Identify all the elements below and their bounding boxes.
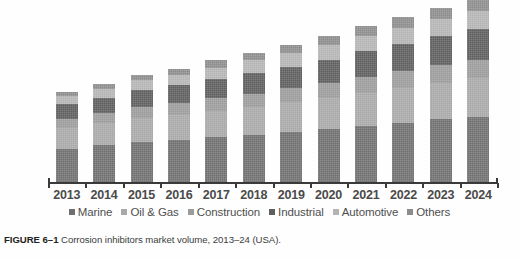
bar-segment-industrial-2022[interactable] bbox=[392, 44, 414, 71]
bar-stack-2015[interactable] bbox=[131, 75, 153, 183]
bar-segment-construction-2022[interactable] bbox=[392, 71, 414, 88]
bar-segment-oil-gas-2017[interactable] bbox=[205, 111, 227, 138]
legend-item-oil-gas[interactable]: Oil & Gas bbox=[121, 206, 178, 218]
bar-segment-oil-gas-2023[interactable] bbox=[430, 83, 452, 120]
bar-segment-others-2017[interactable] bbox=[205, 60, 227, 67]
bar-segment-oil-gas-2013[interactable] bbox=[56, 128, 78, 149]
bar-segment-industrial-2015[interactable] bbox=[131, 90, 153, 107]
bar-segment-marine-2018[interactable] bbox=[243, 135, 265, 183]
bar-stack-2013[interactable] bbox=[56, 92, 78, 183]
bar-segment-construction-2020[interactable] bbox=[318, 83, 340, 98]
bar-stack-2017[interactable] bbox=[205, 60, 227, 183]
bar-segment-automotive-2024[interactable] bbox=[467, 11, 489, 29]
bar-stack-2014[interactable] bbox=[93, 84, 115, 183]
bar-segment-others-2015[interactable] bbox=[131, 75, 153, 80]
bar-stack-2019[interactable] bbox=[280, 45, 302, 183]
bar-segment-others-2016[interactable] bbox=[168, 69, 190, 75]
bar-segment-industrial-2020[interactable] bbox=[318, 60, 340, 83]
bar-segment-construction-2014[interactable] bbox=[93, 113, 115, 123]
bar-segment-oil-gas-2022[interactable] bbox=[392, 88, 414, 123]
bar-segment-others-2024[interactable] bbox=[467, 0, 489, 11]
bar-segment-marine-2016[interactable] bbox=[168, 140, 190, 183]
bar-stack-2021[interactable] bbox=[355, 26, 377, 183]
bar-segment-automotive-2019[interactable] bbox=[280, 53, 302, 66]
legend-item-automotive[interactable]: Automotive bbox=[333, 206, 399, 218]
bar-segment-marine-2024[interactable] bbox=[467, 117, 489, 183]
bar-stack-2024[interactable] bbox=[467, 0, 489, 183]
legend-item-others[interactable]: Others bbox=[407, 206, 450, 218]
bar-stack-2018[interactable] bbox=[243, 53, 265, 183]
bar-segment-industrial-2018[interactable] bbox=[243, 73, 265, 94]
bar-segment-others-2022[interactable] bbox=[392, 17, 414, 28]
bar-segment-oil-gas-2020[interactable] bbox=[318, 98, 340, 129]
bar-segment-construction-2015[interactable] bbox=[131, 107, 153, 118]
legend-item-construction[interactable]: Construction bbox=[188, 206, 260, 218]
bar-segment-oil-gas-2024[interactable] bbox=[467, 78, 489, 116]
bar-segment-industrial-2024[interactable] bbox=[467, 29, 489, 59]
bar-segment-construction-2023[interactable] bbox=[430, 65, 452, 83]
legend-label-automotive: Automotive bbox=[342, 206, 399, 218]
bar-stack-2016[interactable] bbox=[168, 68, 190, 183]
bar-segment-automotive-2016[interactable] bbox=[168, 75, 190, 86]
bar-segment-others-2014[interactable] bbox=[93, 84, 115, 89]
x-tick-label-2013: 2013 bbox=[48, 188, 86, 202]
bar-segment-automotive-2013[interactable] bbox=[56, 96, 78, 104]
bar-segment-oil-gas-2016[interactable] bbox=[168, 115, 190, 140]
bar-segment-marine-2014[interactable] bbox=[93, 145, 115, 183]
bar-stack-2022[interactable] bbox=[392, 17, 414, 183]
bar-segment-industrial-2021[interactable] bbox=[355, 51, 377, 76]
bar-segment-oil-gas-2014[interactable] bbox=[93, 123, 115, 145]
bar-segment-industrial-2019[interactable] bbox=[280, 67, 302, 88]
bar-segment-oil-gas-2015[interactable] bbox=[131, 118, 153, 142]
bar-segment-marine-2019[interactable] bbox=[280, 132, 302, 183]
figure-container: 2013201420152016201720182019202020212022… bbox=[0, 0, 519, 259]
bar-segment-automotive-2017[interactable] bbox=[205, 68, 227, 80]
bar-segment-industrial-2023[interactable] bbox=[430, 36, 452, 65]
bar-segment-automotive-2015[interactable] bbox=[131, 80, 153, 90]
figure-caption: FIGURE 6–1 Corrosion inhibitors market v… bbox=[4, 234, 504, 245]
bar-segment-marine-2017[interactable] bbox=[205, 137, 227, 183]
bar-segment-construction-2017[interactable] bbox=[205, 98, 227, 111]
bar-segment-industrial-2017[interactable] bbox=[205, 79, 227, 98]
legend-item-marine[interactable]: Marine bbox=[69, 206, 113, 218]
bar-segment-others-2023[interactable] bbox=[430, 8, 452, 20]
bar-segment-marine-2015[interactable] bbox=[131, 142, 153, 183]
bar-segment-industrial-2013[interactable] bbox=[56, 104, 78, 118]
bar-segment-industrial-2014[interactable] bbox=[93, 98, 115, 113]
legend-swatch-icon-industrial bbox=[269, 209, 275, 215]
bar-segment-automotive-2014[interactable] bbox=[93, 89, 115, 98]
bar-segment-construction-2024[interactable] bbox=[467, 60, 489, 79]
bar-segment-oil-gas-2019[interactable] bbox=[280, 102, 302, 132]
chart-plot-area bbox=[48, 4, 497, 183]
bar-segment-construction-2021[interactable] bbox=[355, 77, 377, 93]
bar-segment-construction-2018[interactable] bbox=[243, 94, 265, 107]
bar-segment-industrial-2016[interactable] bbox=[168, 85, 190, 103]
bar-segment-automotive-2020[interactable] bbox=[318, 45, 340, 59]
bar-segment-automotive-2022[interactable] bbox=[392, 28, 414, 44]
bar-segment-others-2013[interactable] bbox=[56, 92, 78, 96]
bar-segment-automotive-2018[interactable] bbox=[243, 60, 265, 73]
bar-segment-construction-2016[interactable] bbox=[168, 103, 190, 115]
x-tick-label-2023: 2023 bbox=[422, 188, 460, 202]
bar-segment-marine-2013[interactable] bbox=[56, 149, 78, 183]
x-tick-label-2024: 2024 bbox=[459, 188, 497, 202]
bar-segment-construction-2019[interactable] bbox=[280, 88, 302, 102]
bar-segment-marine-2022[interactable] bbox=[392, 123, 414, 183]
bar-segment-marine-2020[interactable] bbox=[318, 129, 340, 183]
bar-segment-oil-gas-2018[interactable] bbox=[243, 107, 265, 135]
bar-segment-others-2021[interactable] bbox=[355, 26, 377, 36]
bar-segment-marine-2021[interactable] bbox=[355, 126, 377, 183]
bar-segment-marine-2023[interactable] bbox=[430, 119, 452, 183]
x-tick-label-2016: 2016 bbox=[160, 188, 198, 202]
bar-stack-2023[interactable] bbox=[430, 8, 452, 183]
bar-segment-construction-2013[interactable] bbox=[56, 119, 78, 128]
bar-segment-automotive-2021[interactable] bbox=[355, 36, 377, 51]
bar-segment-others-2018[interactable] bbox=[243, 53, 265, 60]
x-tick-label-2020: 2020 bbox=[310, 188, 348, 202]
legend-item-industrial[interactable]: Industrial bbox=[269, 206, 324, 218]
bar-segment-automotive-2023[interactable] bbox=[430, 19, 452, 36]
bar-segment-others-2020[interactable] bbox=[318, 36, 340, 45]
bar-segment-others-2019[interactable] bbox=[280, 45, 302, 53]
bar-segment-oil-gas-2021[interactable] bbox=[355, 93, 377, 126]
bar-stack-2020[interactable] bbox=[318, 36, 340, 183]
